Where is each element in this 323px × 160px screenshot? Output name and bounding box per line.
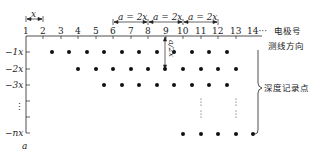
depth-label: −1x	[5, 47, 23, 57]
depth-points-label: 深度记录点	[264, 83, 309, 93]
depth-label: −nx	[5, 128, 23, 138]
depth-label: −2x	[5, 64, 23, 74]
electrode-number: 8	[145, 26, 151, 36]
electrode-number: 5	[93, 26, 99, 36]
electrode-number: 11	[195, 26, 206, 36]
electrode-number: 3	[58, 26, 64, 36]
electrode-number: 1	[23, 26, 29, 36]
survey-direction-label: 测线方向	[268, 41, 304, 51]
spacing-a-label-2: a = 2x	[153, 12, 182, 22]
depth-axis-label: a	[22, 141, 27, 151]
electrode-number: 9	[163, 26, 169, 36]
electrode-number: 13	[230, 26, 241, 36]
pseudosection-diagram: x a = 2x a = 2x a = 2x 1 2 3 4 5 6 7 8 9…	[0, 0, 323, 160]
vertical-spacing-label: a/2x	[166, 40, 176, 57]
diagram-graphics	[0, 0, 323, 160]
depth-ellipsis: ⋮	[15, 102, 24, 112]
electrode-number: 12	[212, 26, 223, 36]
electrode-number: 4	[75, 26, 81, 36]
electrode-number: 6	[110, 26, 116, 36]
spacing-a-label-1: a = 2x	[118, 12, 147, 22]
electrode-number: 2	[40, 26, 46, 36]
electrode-number: 10	[177, 26, 188, 36]
electrode-number: 14···	[247, 26, 267, 36]
spacing-a-label-3: a = 2x	[188, 12, 217, 22]
spacing-x-label: x	[31, 9, 36, 19]
electrode-number: 7	[128, 26, 134, 36]
depth-label: −3x	[5, 80, 23, 90]
electrode-axis-label: 电极号	[274, 26, 301, 36]
